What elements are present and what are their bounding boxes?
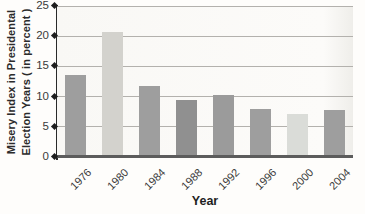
bar-1976 [65, 75, 86, 157]
misery-index-bar-chart: Misery Index in Presidental Election Yea… [0, 0, 365, 214]
y-tick-label-25: 25 [19, 0, 49, 11]
bar-1984 [139, 86, 160, 157]
plot-area [57, 6, 353, 157]
x-axis-title: Year [57, 194, 353, 208]
bar-1992 [213, 95, 234, 157]
y-tick-label-15: 15 [19, 59, 49, 71]
x-axis-line [57, 155, 353, 158]
y-tick-label-10: 10 [19, 90, 49, 102]
y-tick-label-5: 5 [19, 120, 49, 132]
bar-2004 [324, 110, 345, 157]
y-tick-label-0: 0 [19, 150, 49, 162]
y-axis-title: Misery Index in Presidental Election Yea… [4, 0, 36, 168]
bar-1988 [176, 100, 197, 157]
bar-1980 [102, 32, 123, 157]
gridline-25 [57, 6, 353, 7]
y-axis-title-line1: Misery Index in Presidental [5, 10, 17, 155]
y-tick-label-20: 20 [19, 29, 49, 41]
bar-1996 [250, 109, 271, 157]
bar-2000 [287, 114, 308, 157]
